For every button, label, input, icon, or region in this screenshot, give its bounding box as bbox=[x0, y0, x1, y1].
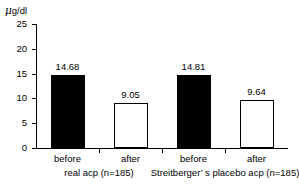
y-axis-tick: 15 bbox=[32, 74, 36, 75]
x-axis-separator-tick bbox=[99, 148, 100, 153]
x-axis-separator-tick bbox=[162, 148, 163, 153]
y-axis-tick: 25 bbox=[32, 24, 36, 25]
y-axis-unit-label: μg/dl bbox=[5, 5, 27, 16]
y-axis-tick-label: 25 bbox=[16, 19, 27, 29]
bar-value-label: 9.05 bbox=[121, 90, 140, 100]
y-axis-tick: 0 bbox=[32, 148, 36, 149]
x-axis-separator-tick bbox=[225, 148, 226, 153]
y-axis-unit-rest: g/dl bbox=[12, 5, 27, 16]
plot-area: 2520151050 14.689.0514.819.64 bbox=[36, 24, 288, 148]
y-axis-tick: 20 bbox=[32, 49, 36, 50]
y-axis-tick: 5 bbox=[32, 123, 36, 124]
x-axis-group-label: Streitberger’ s placebo acp (n=185) bbox=[151, 168, 299, 178]
x-axis-category-label: after bbox=[247, 154, 266, 164]
x-axis-category-label: before bbox=[180, 154, 207, 164]
x-axis-category-label: before bbox=[54, 154, 81, 164]
y-axis-tick-label: 5 bbox=[22, 118, 27, 128]
y-axis-tick-label: 20 bbox=[16, 44, 27, 54]
y-axis-unit-mu: μ bbox=[5, 4, 12, 16]
bar-value-label: 14.81 bbox=[182, 62, 206, 72]
y-axis-line bbox=[36, 24, 37, 148]
x-axis-group-label: real acp (n=185) bbox=[64, 168, 133, 178]
y-axis-tick: 10 bbox=[32, 98, 36, 99]
x-axis-category-label: after bbox=[121, 154, 140, 164]
bar bbox=[51, 75, 85, 148]
bar-chart: μg/dl 2520151050 14.689.0514.819.64 befo… bbox=[0, 0, 299, 187]
y-axis-tick-label: 10 bbox=[16, 94, 27, 104]
bar bbox=[240, 100, 274, 148]
y-axis-tick-label: 15 bbox=[16, 69, 27, 79]
bar bbox=[177, 75, 211, 148]
y-axis-tick-label: 0 bbox=[22, 143, 27, 153]
bar bbox=[114, 103, 148, 148]
bar-value-label: 9.64 bbox=[247, 87, 266, 97]
bar-value-label: 14.68 bbox=[56, 62, 80, 72]
